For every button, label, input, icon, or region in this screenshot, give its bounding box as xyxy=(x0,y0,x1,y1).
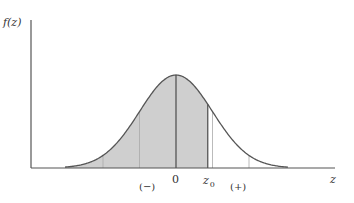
z0-label: z0 xyxy=(202,174,215,189)
zero-label: 0 xyxy=(172,173,179,186)
z0-base: z xyxy=(202,174,209,187)
negative-label: (−) xyxy=(139,181,155,192)
x-axis-label: z xyxy=(329,173,336,186)
shaded-area xyxy=(65,75,208,168)
y-axis-label: f(z) xyxy=(2,16,21,29)
positive-label: (+) xyxy=(230,181,246,192)
z0-subscript: 0 xyxy=(210,180,215,189)
normal-curve-diagram: f(z) z 0 z0 (−) (+) xyxy=(0,0,354,203)
